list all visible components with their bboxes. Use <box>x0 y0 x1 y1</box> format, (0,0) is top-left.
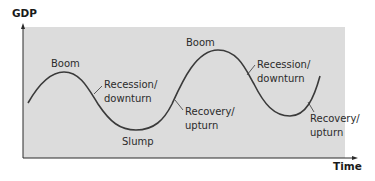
y-axis-arrow-icon <box>21 23 25 29</box>
label-boom-1: Boom <box>51 58 80 69</box>
chart-panel <box>23 27 345 158</box>
label-boom-2: Boom <box>186 37 215 48</box>
x-axis-title: Time <box>333 160 362 172</box>
label-slump: Slump <box>122 136 154 147</box>
y-axis-title: GDP <box>12 7 37 19</box>
business-cycle-diagram: GDP Time Boom Recession/ downturn Slump … <box>0 0 375 181</box>
